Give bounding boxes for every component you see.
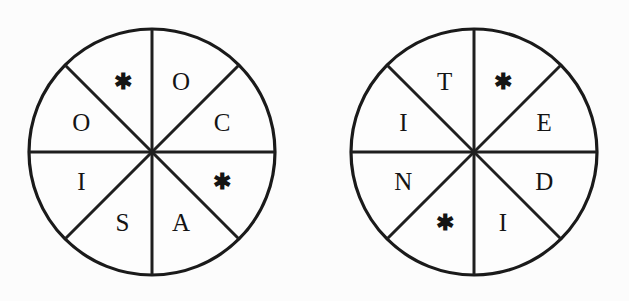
sector-star-icon: ✱ <box>494 69 512 94</box>
wheel-canvas: OC✱ASIO✱✱EDI✱NIT <box>0 0 629 301</box>
sector-letter: I <box>499 209 508 236</box>
right-word-wheel: ✱EDI✱NIT <box>351 29 597 275</box>
left-word-wheel: OC✱ASIO✱ <box>29 29 275 275</box>
sector-letter: I <box>77 168 86 195</box>
sector-star-icon: ✱ <box>213 169 231 194</box>
sector-star-icon: ✱ <box>114 69 132 94</box>
sector-letter: D <box>535 168 554 195</box>
sector-letter: A <box>172 209 191 236</box>
sector-letter: O <box>172 68 191 95</box>
sector-letter: S <box>116 209 130 236</box>
sector-letter: I <box>399 109 408 136</box>
sector-letter: E <box>537 109 553 136</box>
word-wheel-figure: OC✱ASIO✱✱EDI✱NIT <box>0 0 629 301</box>
sector-letter: C <box>214 109 231 136</box>
sector-letter: N <box>394 168 413 195</box>
sector-letter: O <box>72 109 91 136</box>
sector-letter: T <box>437 68 453 95</box>
sector-star-icon: ✱ <box>436 210 454 235</box>
